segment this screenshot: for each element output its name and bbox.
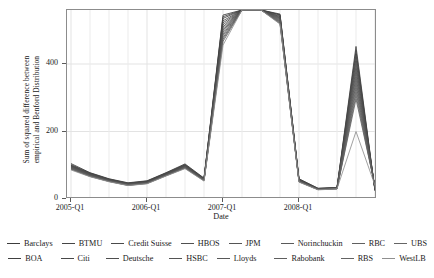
legend-item[interactable]: UBS [394,239,427,248]
legend-item[interactable]: BTMU [62,239,103,248]
legend-line-swatch [62,243,75,245]
legend-item[interactable]: HSBC [169,254,207,263]
chart-figure: Sum of squared difference between empiri… [0,0,434,278]
y-tick-label: 200 [32,127,58,135]
legend-item-label: Deutsche [123,254,153,263]
legend-item-label: BOA [25,254,42,263]
x-axis-title: Date [66,212,376,221]
data-lines [67,10,376,198]
legend-item[interactable]: RBC [352,239,385,248]
legend-line-swatch [352,243,365,245]
series-line [71,10,375,189]
legend-item[interactable]: HBOS [181,239,220,248]
legend-line-swatch [229,243,242,245]
x-tick-mark [146,198,147,202]
legend-row-1: BarclaysBTMUCredit SuisseHBOSJPMNorinchu… [0,236,434,251]
legend-line-swatch [382,258,395,260]
legend-item[interactable]: Deutsche [106,254,153,263]
legend-item[interactable]: Lloyds [217,254,257,263]
x-tick-mark [222,198,223,202]
legend-line-swatch [8,258,21,260]
legend-item-label: Norinchuckin [298,239,343,248]
x-tick-label: 2008-Q1 [284,203,312,212]
series-line [71,10,375,190]
y-tick-mark [62,131,66,132]
legend-item-label: RBS [358,254,373,263]
legend-item-label: BTMU [79,239,103,248]
y-axis-title-line1: Sum of squared difference between [22,56,31,164]
y-tick-label: 400 [32,59,58,67]
y-tick-label: 0 [32,194,58,202]
x-tick-label: 2005-Q1 [56,203,84,212]
legend-item[interactable]: Rabobank [274,254,324,263]
x-tick-label: 2007-Q1 [208,203,236,212]
legend-item-label: Lloyds [234,254,257,263]
legend-line-swatch [111,243,124,245]
legend-row-2: BOACitiDeutscheHSBCLloydsRabobankRBSWest… [0,251,434,266]
legend-item-label: Barclays [24,239,53,248]
x-tick-mark [70,198,71,202]
x-tick-label: 2006-Q1 [132,203,160,212]
legend-line-swatch [281,243,294,245]
legend-item[interactable]: JPM [229,239,261,248]
legend-line-swatch [106,258,119,260]
legend-line-swatch [181,243,194,245]
legend-line-swatch [274,258,287,260]
legend-item-label: WestLB [399,254,426,263]
legend-item[interactable]: Barclays [7,239,53,248]
legend-line-swatch [7,243,20,245]
legend-item-label: HSBC [186,254,207,263]
legend-item[interactable]: Citi [61,254,90,263]
legend-item-label: Credit Suisse [128,239,171,248]
legend-item[interactable]: BOA [8,254,42,263]
legend-line-swatch [394,243,407,245]
legend-item-label: JPM [246,239,261,248]
legend-item-label: RBC [369,239,385,248]
legend-item[interactable]: Norinchuckin [281,239,343,248]
legend-item[interactable]: RBS [341,254,373,263]
chart-legend: BarclaysBTMUCredit SuisseHBOSJPMNorinchu… [0,236,434,266]
legend-line-swatch [217,258,230,260]
legend-line-swatch [341,258,354,260]
legend-item-label: HBOS [198,239,220,248]
legend-item[interactable]: WestLB [382,254,426,263]
legend-item[interactable]: Credit Suisse [111,239,171,248]
y-tick-mark [62,63,66,64]
legend-item-label: Citi [78,254,90,263]
legend-item-label: Rabobank [291,254,324,263]
legend-line-swatch [169,258,182,260]
y-axis-ticks: 0200400 [32,0,58,215]
legend-item-label: UBS [411,239,427,248]
plot-area [66,9,376,198]
legend-line-swatch [61,258,74,260]
x-tick-mark [298,198,299,202]
y-tick-mark [62,198,66,199]
